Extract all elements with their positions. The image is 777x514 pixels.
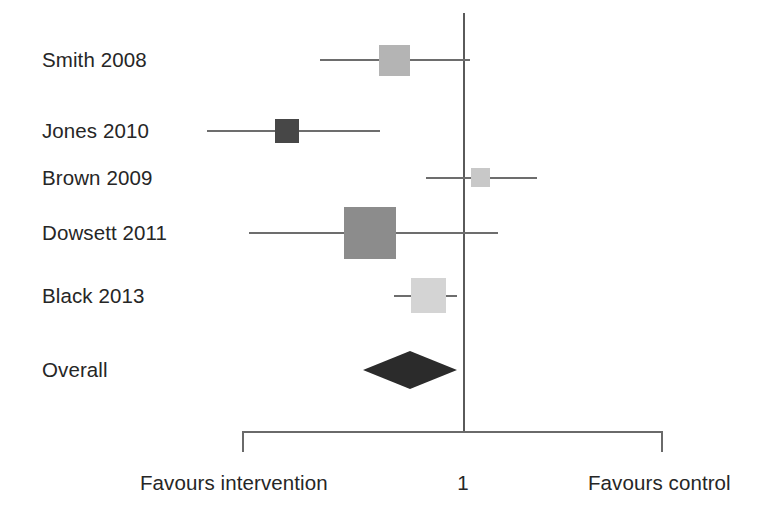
axis-label-favours-intervention: Favours intervention xyxy=(140,473,328,494)
forest-plot: Smith 2008 Jones 2010 Brown 2009 Dowsett… xyxy=(0,0,777,514)
study-label-overall: Overall xyxy=(42,360,108,381)
effect-marker-black-2013 xyxy=(411,278,446,313)
study-label-brown-2009: Brown 2009 xyxy=(42,168,152,189)
effect-marker-brown-2009 xyxy=(471,168,490,187)
diamond-icon xyxy=(363,351,457,389)
effect-marker-dowsett-2011 xyxy=(344,207,396,259)
x-axis-baseline xyxy=(242,431,662,433)
study-label-jones-2010: Jones 2010 xyxy=(42,121,149,142)
effect-marker-smith-2008 xyxy=(379,45,410,76)
effect-marker-jones-2010 xyxy=(275,119,299,143)
x-axis-tick-label-1: 1 xyxy=(449,473,477,494)
axis-label-favours-control: Favours control xyxy=(588,473,731,494)
null-effect-reference-line xyxy=(463,13,465,431)
study-label-dowsett-2011: Dowsett 2011 xyxy=(42,223,167,244)
study-label-black-2013: Black 2013 xyxy=(42,286,144,307)
x-axis-tick-right xyxy=(661,431,663,452)
summary-effect-diamond-overall xyxy=(363,351,457,389)
x-axis-tick-left xyxy=(242,431,244,452)
study-label-smith-2008: Smith 2008 xyxy=(42,50,147,71)
